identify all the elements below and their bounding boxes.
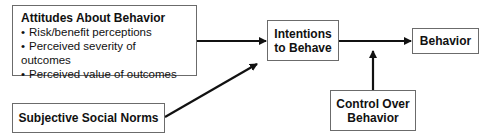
attitudes-item: Perceived value of outcomes: [21, 67, 188, 81]
intentions-line2: to Behave: [274, 41, 331, 55]
intentions-box: Intentions to Behave: [267, 20, 339, 61]
subjective-norms-label: Subjective Social Norms: [18, 111, 158, 125]
intentions-line1: Intentions: [274, 27, 331, 41]
attitudes-item: Perceived severity of outcomes: [21, 39, 188, 67]
behavior-label: Behavior: [420, 34, 471, 48]
control-line2: Behavior: [347, 111, 398, 125]
attitudes-title: Attitudes About Behavior: [21, 11, 188, 25]
attitudes-box: Attitudes About Behavior Risk/benefit pe…: [12, 5, 197, 76]
attitudes-list: Risk/benefit perceptions Perceived sever…: [21, 25, 188, 81]
control-line1: Control Over: [336, 97, 409, 111]
behavior-box: Behavior: [412, 28, 479, 54]
subjective-norms-box: Subjective Social Norms: [12, 103, 165, 133]
control-box: Control Over Behavior: [330, 90, 416, 131]
attitudes-item: Risk/benefit perceptions: [21, 25, 188, 39]
